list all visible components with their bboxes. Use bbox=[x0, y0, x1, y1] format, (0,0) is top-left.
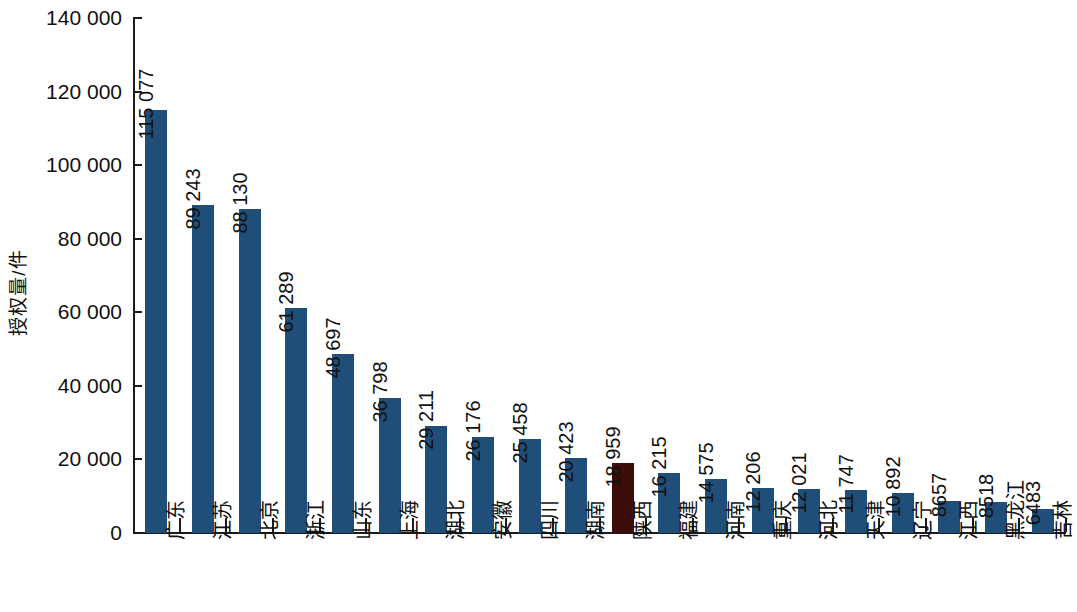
y-axis-tick-label: 0 bbox=[2, 522, 122, 543]
x-axis-label: 上海 bbox=[400, 500, 420, 540]
x-axis-label: 山东 bbox=[353, 500, 373, 540]
x-axis-label: 吉林 bbox=[1053, 500, 1073, 540]
plot-area: 115 07789 24388 13061 28948 69736 79829 … bbox=[133, 18, 1066, 533]
bar: 48 697 bbox=[332, 354, 354, 533]
y-axis-tick-label: 140 000 bbox=[2, 7, 122, 28]
y-axis-tick-label: 60 000 bbox=[2, 301, 122, 322]
bar: 10 892 bbox=[892, 493, 914, 533]
bar: 11 747 bbox=[845, 490, 867, 533]
y-axis-tick-label: 80 000 bbox=[2, 228, 122, 249]
bar: 36 798 bbox=[379, 398, 401, 533]
bar-value-label: 18 959 bbox=[603, 427, 623, 488]
bar: 29 211 bbox=[425, 426, 447, 533]
x-axis-label: 河南 bbox=[726, 500, 746, 540]
bar-value-label: 14 575 bbox=[696, 443, 716, 504]
bar-value-label: 88 130 bbox=[230, 172, 250, 233]
x-axis-label: 湖北 bbox=[446, 500, 466, 540]
x-axis-label: 重庆 bbox=[773, 500, 793, 540]
x-axis-label: 四川 bbox=[540, 500, 560, 540]
bar: 6483 bbox=[1032, 509, 1054, 533]
bar: 20 423 bbox=[565, 458, 587, 533]
bar: 12 206 bbox=[752, 488, 774, 533]
x-axis-label: 天津 bbox=[866, 500, 886, 540]
bar-value-label: 61 289 bbox=[276, 271, 296, 332]
bar-value-label: 29 211 bbox=[416, 390, 436, 450]
bar-value-label: 89 243 bbox=[183, 168, 203, 229]
x-axis-label: 江西 bbox=[959, 500, 979, 540]
x-axis-label: 辽宁 bbox=[913, 500, 933, 540]
bar: 25 458 bbox=[519, 439, 541, 533]
bar-value-label: 36 798 bbox=[370, 361, 390, 422]
x-axis-label: 黑龙江 bbox=[1006, 480, 1026, 540]
bar: 115 077 bbox=[145, 110, 167, 533]
bar-value-label: 115 077 bbox=[136, 68, 156, 139]
bar: 18 959 bbox=[612, 463, 634, 533]
x-axis-label: 广东 bbox=[166, 500, 186, 540]
bar-value-label: 20 423 bbox=[556, 421, 576, 482]
x-axis-label: 湖南 bbox=[586, 500, 606, 540]
x-axis-label: 福建 bbox=[679, 500, 699, 540]
y-axis-tick-label: 120 000 bbox=[2, 81, 122, 102]
bar: 14 575 bbox=[705, 479, 727, 533]
bar-value-label: 16 215 bbox=[649, 437, 669, 498]
x-axis-label: 浙江 bbox=[306, 500, 326, 540]
bar: 26 176 bbox=[472, 437, 494, 533]
y-axis-tick-label: 20 000 bbox=[2, 448, 122, 469]
x-axis-label: 安徽 bbox=[493, 500, 513, 540]
x-axis-label: 江苏 bbox=[213, 500, 233, 540]
bar: 88 130 bbox=[239, 209, 261, 533]
bar: 61 289 bbox=[285, 308, 307, 533]
bar-chart: 授权量/件 020 00040 00060 00080 000100 00012… bbox=[0, 0, 1077, 612]
x-axis-label: 北京 bbox=[260, 500, 280, 540]
bar-value-label: 25 458 bbox=[510, 403, 530, 464]
bar-value-label: 26 176 bbox=[463, 400, 483, 461]
x-axis-label: 陕西 bbox=[633, 500, 653, 540]
x-axis-label: 河北 bbox=[819, 500, 839, 540]
bar-value-label: 48 697 bbox=[323, 317, 343, 378]
bar: 8518 bbox=[985, 502, 1007, 533]
bar: 89 243 bbox=[192, 205, 214, 533]
y-axis-tick-label: 100 000 bbox=[2, 154, 122, 175]
y-axis-tick-label: 40 000 bbox=[2, 375, 122, 396]
